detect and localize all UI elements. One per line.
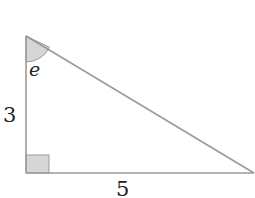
right-angle-marker (26, 155, 49, 173)
side-label-vertical: 3 (3, 103, 16, 127)
side-hypotenuse (26, 36, 254, 173)
triangle-diagram: e 3 5 (0, 0, 255, 198)
side-label-horizontal: 5 (116, 177, 129, 198)
angle-label: e (29, 58, 40, 80)
